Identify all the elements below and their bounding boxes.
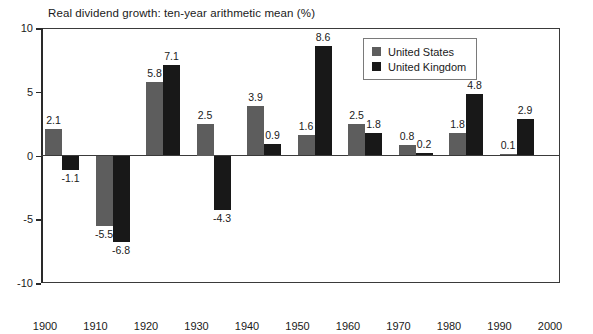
y-tick-mark (36, 219, 41, 221)
y-tick-label: 5 (27, 86, 33, 98)
bar-value-label: 5.8 (147, 67, 162, 79)
bar-value-label: 0.9 (265, 129, 280, 141)
y-tick-label: 0 (27, 150, 33, 162)
bar-value-label: 1.8 (450, 118, 465, 130)
bar-uk-1980 (466, 94, 483, 155)
chart-figure: Real dividend growth: ten-year arithmeti… (0, 0, 593, 334)
bar-value-label: -1.1 (61, 172, 79, 184)
x-tick-label: 1980 (437, 320, 461, 332)
bar-uk-1910 (113, 156, 130, 243)
bar-us-1910 (96, 156, 113, 226)
bar-us-1940 (247, 106, 264, 156)
bar-us-1980 (449, 133, 466, 156)
bar-uk-1930 (214, 156, 231, 211)
y-tick-label: -5 (23, 213, 33, 225)
x-tick-label: 1960 (336, 320, 360, 332)
bar-value-label: -4.3 (213, 212, 231, 224)
bar-us-1970 (399, 145, 416, 155)
bar-value-label: 2.5 (198, 109, 213, 121)
bar-uk-1920 (163, 65, 180, 156)
bar-value-label: 2.5 (349, 109, 364, 121)
plot-frame-top (41, 28, 560, 29)
bar-value-label: 0.1 (501, 139, 516, 151)
bar-value-label: 3.9 (248, 91, 263, 103)
bar-value-label: 8.6 (316, 31, 331, 43)
bar-us-1990 (500, 154, 517, 155)
bar-value-label: -5.5 (95, 228, 113, 240)
bar-uk-1900 (62, 156, 79, 170)
bar-value-label: 4.8 (467, 79, 482, 91)
bar-value-label: 1.8 (366, 118, 381, 130)
bar-value-label: 2.9 (518, 104, 533, 116)
chart-title: Real dividend growth: ten-year arithmeti… (48, 7, 315, 19)
x-tick-label: 1970 (386, 320, 410, 332)
bar-us-1950 (298, 135, 315, 155)
legend-swatch-icon (372, 47, 381, 56)
bar-uk-1960 (365, 133, 382, 156)
y-tick-mark (36, 28, 41, 30)
x-tick-label: 1990 (487, 320, 511, 332)
bar-uk-1950 (315, 46, 332, 156)
bar-uk-1940 (264, 144, 281, 155)
y-tick-mark (36, 92, 41, 94)
legend-item-us[interactable]: United States (372, 44, 466, 59)
bar-us-1930 (197, 124, 214, 156)
plot-area: 1050-5-10 2.1-5.55.82.53.91.62.50.81.80.… (41, 28, 560, 283)
x-tick-label: 1910 (83, 320, 107, 332)
legend-swatch-icon (372, 62, 381, 71)
x-tick-label: 1950 (285, 320, 309, 332)
plot-frame-bottom (41, 282, 560, 283)
bar-us-1960 (348, 124, 365, 156)
bar-uk-1970 (416, 153, 433, 156)
x-tick-label: 1940 (235, 320, 259, 332)
bar-value-label: 1.6 (299, 120, 314, 132)
y-tick-label: -10 (17, 277, 33, 289)
y-tick-mark (36, 283, 41, 285)
chart-legend: United StatesUnited Kingdom (363, 38, 477, 80)
bar-value-label: 0.8 (400, 130, 415, 142)
legend-label: United Kingdom (388, 61, 466, 73)
bar-value-label: -6.8 (112, 244, 130, 256)
bar-value-label: 0.2 (417, 138, 432, 150)
x-tick-label: 1900 (33, 320, 57, 332)
x-tick-label: 1930 (184, 320, 208, 332)
legend-item-uk[interactable]: United Kingdom (372, 59, 466, 74)
legend-label: United States (388, 46, 454, 58)
bar-us-1900 (45, 129, 62, 156)
y-tick-label: 10 (21, 22, 33, 34)
bar-value-label: 7.1 (164, 50, 179, 62)
x-tick-label: 1920 (134, 320, 158, 332)
bar-uk-1990 (517, 119, 534, 156)
x-tick-label: 2000 (538, 320, 562, 332)
bar-us-1920 (146, 82, 163, 156)
bar-value-label: 2.1 (46, 114, 61, 126)
